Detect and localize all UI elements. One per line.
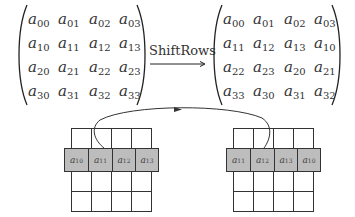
curved-arrow-icon xyxy=(0,0,355,217)
